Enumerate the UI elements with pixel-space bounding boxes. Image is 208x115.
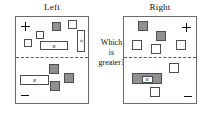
zone-divider-left [16, 57, 88, 58]
tile-unit [64, 73, 74, 83]
tile-unit [138, 21, 148, 31]
zone-divider-right [124, 57, 196, 58]
tile-unit [156, 31, 166, 41]
tile-x-label: x [21, 77, 48, 84]
tile-x-bar: x [77, 30, 85, 52]
tile-unit [68, 20, 77, 29]
tile-unit [132, 40, 142, 50]
tile-x-label: x [133, 75, 161, 82]
tile-x-bar: x [132, 73, 162, 84]
tile-unit [151, 44, 161, 54]
negative-sign-left [21, 94, 29, 97]
panel-right: x [123, 16, 197, 104]
negative-sign-right [184, 95, 192, 98]
tile-unit [24, 39, 32, 47]
tile-unit [150, 87, 160, 97]
tile-unit [52, 22, 61, 31]
tile-unit [169, 63, 179, 73]
positive-sign-right [182, 23, 191, 32]
tile-x-bar: x [20, 75, 49, 85]
tile-unit [36, 31, 44, 39]
panel-left: x x x [15, 16, 89, 104]
tile-x-label: x [78, 38, 85, 44]
tile-x-bar: x [40, 41, 68, 50]
tile-unit [49, 64, 59, 74]
positive-sign-left [21, 22, 30, 31]
panel-title-left: Left [15, 2, 89, 13]
panel-title-right: Right [123, 2, 197, 13]
algebra-tiles-comparison-diagram: Left x x x Which is greater? [0, 0, 208, 115]
tile-x-label: x [41, 42, 67, 49]
tile-unit [50, 81, 60, 91]
tile-unit [176, 40, 186, 50]
